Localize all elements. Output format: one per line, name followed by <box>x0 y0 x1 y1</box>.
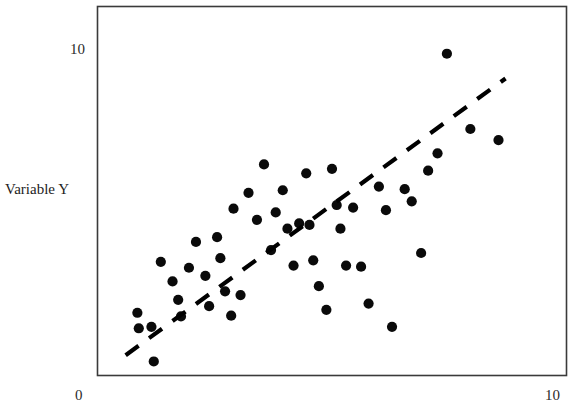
data-point <box>184 263 194 273</box>
data-point <box>387 322 397 332</box>
data-point <box>493 135 503 145</box>
data-point <box>363 298 373 308</box>
data-point <box>204 301 214 311</box>
data-point <box>228 204 238 214</box>
data-point <box>356 262 366 272</box>
data-point <box>271 207 281 217</box>
data-point <box>341 260 351 270</box>
data-point <box>335 224 345 234</box>
data-point <box>226 311 236 321</box>
data-point <box>146 322 156 332</box>
chart-canvas: 10 Variable Y 0 10 <box>0 0 568 411</box>
data-point <box>173 295 183 305</box>
data-point <box>423 166 433 176</box>
data-point <box>134 323 144 333</box>
data-point <box>215 253 225 263</box>
data-point <box>288 260 298 270</box>
data-point <box>301 168 311 178</box>
data-point <box>304 220 314 230</box>
data-point <box>191 237 201 247</box>
data-point <box>416 248 426 258</box>
data-point <box>308 255 318 265</box>
x-axis-tick-10: 10 <box>545 387 560 403</box>
data-point <box>156 257 166 267</box>
data-point <box>465 124 475 134</box>
data-point <box>167 276 177 286</box>
data-point <box>442 49 452 59</box>
data-point <box>327 164 337 174</box>
y-axis-title: Variable Y <box>5 181 69 197</box>
data-point <box>432 148 442 158</box>
data-point <box>243 188 253 198</box>
data-point <box>278 185 288 195</box>
data-point <box>235 290 245 300</box>
y-axis-tick-10: 10 <box>70 41 85 57</box>
data-point <box>252 215 262 225</box>
data-point <box>314 281 324 291</box>
data-point <box>407 196 417 206</box>
data-point <box>381 205 391 215</box>
data-point <box>348 203 358 213</box>
data-point <box>259 159 269 169</box>
data-point <box>374 181 384 191</box>
data-point <box>400 184 410 194</box>
data-point <box>132 308 142 318</box>
data-point <box>200 271 210 281</box>
plot-area-frame <box>98 7 567 376</box>
data-point <box>321 305 331 315</box>
data-point <box>212 232 222 242</box>
data-point <box>149 356 159 366</box>
scatter-plot-figure: 10 Variable Y 0 10 <box>0 0 568 411</box>
x-axis-tick-0: 0 <box>75 387 83 403</box>
